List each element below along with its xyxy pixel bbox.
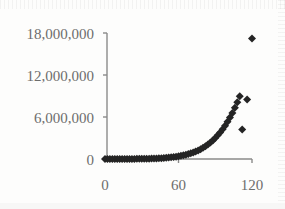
scatter-chart: 06,000,00012,000,00018,000,000 060120 (0, 0, 285, 209)
y-tick-label: 18,000,000 (27, 26, 95, 42)
y-tick-label: 0 (87, 152, 95, 168)
y-tick-label: 6,000,000 (34, 110, 94, 126)
x-tick-label: 60 (171, 177, 186, 193)
data-markers (101, 35, 256, 163)
y-axis-tick-labels: 06,000,00012,000,00018,000,000 (27, 26, 95, 168)
plot-area: 06,000,00012,000,00018,000,000 060120 (0, 0, 285, 209)
data-point-marker (243, 96, 251, 104)
data-point-marker (238, 126, 246, 134)
x-axis-tick-labels: 060120 (101, 177, 263, 193)
x-tick-label: 0 (101, 177, 109, 193)
axis-lines (103, 33, 252, 163)
x-tick-label: 120 (241, 177, 264, 193)
data-point-marker (248, 35, 256, 43)
y-tick-label: 12,000,000 (27, 68, 95, 84)
